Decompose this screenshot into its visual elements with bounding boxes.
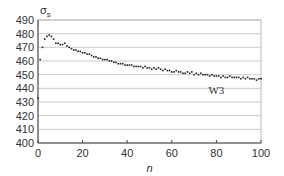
data-point xyxy=(113,62,115,64)
data-point xyxy=(204,74,206,76)
data-point xyxy=(173,71,175,73)
data-point xyxy=(86,53,88,55)
data-point xyxy=(37,97,39,99)
y-tick-label: 460 xyxy=(16,55,34,67)
data-point xyxy=(133,66,135,68)
data-point xyxy=(64,42,66,44)
axes xyxy=(38,20,261,143)
data-point xyxy=(97,57,99,59)
y-tick-label: 420 xyxy=(16,110,34,122)
data-point xyxy=(142,67,144,69)
x-tick-label: 80 xyxy=(210,147,222,159)
data-point xyxy=(202,74,204,76)
data-point xyxy=(227,77,229,79)
data-point xyxy=(169,70,171,72)
y-tick-label: 430 xyxy=(16,96,34,108)
y-tick-label: 440 xyxy=(16,82,34,94)
data-point xyxy=(182,73,184,75)
data-point xyxy=(207,74,209,76)
data-point xyxy=(198,74,200,76)
data-point xyxy=(51,36,53,38)
data-point xyxy=(258,78,260,80)
data-point xyxy=(88,53,90,55)
data-point xyxy=(111,60,113,62)
data-point xyxy=(233,77,235,79)
data-point xyxy=(225,77,227,79)
data-point xyxy=(236,77,238,79)
data-point xyxy=(191,71,193,73)
data-point xyxy=(242,77,244,79)
y-tick-label: 400 xyxy=(16,137,34,149)
data-point xyxy=(48,34,50,36)
data-point xyxy=(260,78,262,80)
data-point xyxy=(62,44,64,46)
data-point xyxy=(104,59,106,61)
data-point xyxy=(138,66,140,68)
data-point xyxy=(115,62,117,64)
data-point xyxy=(200,73,202,75)
data-point xyxy=(68,47,70,49)
data-point xyxy=(187,71,189,73)
data-point xyxy=(129,64,131,66)
data-point xyxy=(57,42,59,44)
data-point xyxy=(240,78,242,80)
data-point xyxy=(222,75,224,77)
x-tick-label: 40 xyxy=(121,147,133,159)
data-point xyxy=(184,73,186,75)
data-point xyxy=(82,52,84,54)
data-point xyxy=(126,64,128,66)
data-point xyxy=(75,49,77,51)
data-point xyxy=(213,75,215,77)
data-point xyxy=(216,75,218,77)
data-point xyxy=(193,74,195,76)
data-point xyxy=(218,75,220,77)
data-point xyxy=(220,77,222,79)
data-point xyxy=(167,70,169,72)
y-tick-label: 480 xyxy=(16,28,34,40)
data-point xyxy=(144,66,146,68)
data-point xyxy=(71,48,73,50)
data-point xyxy=(55,42,57,44)
data-point xyxy=(46,36,48,38)
data-point xyxy=(140,66,142,68)
x-tick-labels: 020406080100 xyxy=(35,147,270,159)
x-tick-label: 0 xyxy=(35,147,41,159)
scatter-chart: 400410420430440450460470480490 020406080… xyxy=(0,0,284,176)
data-point xyxy=(117,63,119,65)
data-points xyxy=(37,34,262,98)
data-point xyxy=(189,73,191,75)
data-point xyxy=(120,63,122,65)
grid-lines xyxy=(38,20,261,129)
data-point xyxy=(42,47,44,49)
data-point xyxy=(95,56,97,58)
data-point xyxy=(80,51,82,53)
data-point xyxy=(238,77,240,79)
data-point xyxy=(84,52,86,54)
data-point xyxy=(44,38,46,40)
data-point xyxy=(231,77,233,79)
y-tick-label: 470 xyxy=(16,41,34,53)
data-point xyxy=(149,67,151,69)
data-point xyxy=(122,63,124,65)
data-point xyxy=(135,66,137,68)
data-point xyxy=(158,67,160,69)
data-point xyxy=(93,56,95,58)
data-point xyxy=(155,68,157,70)
x-axis-label: n xyxy=(146,162,152,174)
x-tick-label: 60 xyxy=(166,147,178,159)
data-point xyxy=(153,67,155,69)
data-point xyxy=(256,79,258,81)
data-point xyxy=(60,44,62,46)
data-point xyxy=(102,59,104,61)
y-tick-labels: 400410420430440450460470480490 xyxy=(16,14,34,149)
data-point xyxy=(196,73,198,75)
plot-frame xyxy=(38,20,261,143)
series-annotation-w3: W3 xyxy=(208,84,224,96)
data-point xyxy=(175,70,177,72)
data-point xyxy=(247,77,249,79)
data-point xyxy=(245,78,247,80)
data-point xyxy=(77,51,79,53)
data-point xyxy=(229,75,231,77)
data-point xyxy=(180,71,182,73)
data-point xyxy=(211,74,213,76)
